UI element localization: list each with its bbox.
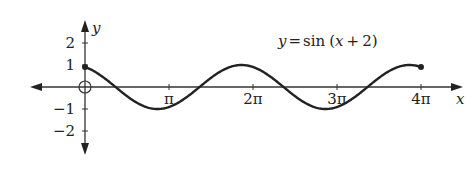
x-tick-label: 2π bbox=[243, 90, 263, 108]
function-label: y=sin(x+2) bbox=[277, 32, 378, 50]
x-axis-left-arrow-icon bbox=[30, 83, 42, 91]
x-axis-label: x bbox=[456, 90, 465, 108]
y-axis-up-arrow-icon bbox=[81, 20, 89, 32]
x-tick-label: 4π bbox=[411, 90, 431, 108]
y-axis-label: y bbox=[91, 19, 101, 37]
sine-graph: π2π3π4π21−1−2 y x y=sin(x+2) bbox=[0, 0, 476, 169]
y-tick-label: 2 bbox=[65, 34, 75, 52]
end-point bbox=[418, 64, 424, 70]
y-axis-down-arrow-icon bbox=[81, 143, 89, 155]
start-point bbox=[82, 64, 88, 70]
y-tick-label: −2 bbox=[53, 122, 75, 140]
y-tick-label: −1 bbox=[53, 100, 75, 118]
y-tick-label: 1 bbox=[65, 56, 75, 74]
